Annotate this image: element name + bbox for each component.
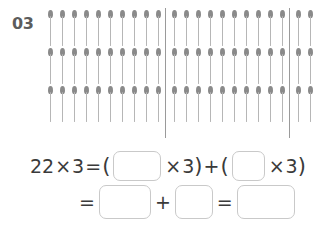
matchstick bbox=[156, 86, 161, 122]
matchstick bbox=[196, 48, 201, 84]
matchstick bbox=[60, 48, 65, 84]
matchstick bbox=[184, 10, 189, 46]
matchstick-stem bbox=[86, 92, 88, 122]
matchstick-stem bbox=[210, 92, 212, 122]
operand-22: 22 bbox=[30, 157, 54, 176]
matchstick bbox=[144, 86, 149, 122]
matchstick-stem bbox=[234, 16, 236, 46]
matchstick bbox=[84, 10, 89, 46]
matchstick bbox=[72, 48, 77, 84]
matchstick-stem bbox=[258, 16, 260, 46]
matchstick bbox=[308, 48, 313, 84]
close-paren-2: ) bbox=[298, 156, 306, 177]
matchstick-stem bbox=[258, 54, 260, 84]
group-divider-line bbox=[289, 8, 290, 138]
matchstick-stem bbox=[186, 92, 188, 122]
answer-blank-1[interactable] bbox=[113, 151, 161, 181]
matchstick-stem bbox=[198, 92, 200, 122]
matchstick-stem bbox=[158, 54, 160, 84]
matchstick bbox=[120, 86, 125, 122]
matchstick-stem bbox=[50, 92, 52, 122]
open-paren-1: ( bbox=[102, 156, 110, 177]
matchstick bbox=[184, 48, 189, 84]
matchstick-stem bbox=[62, 16, 64, 46]
matchstick bbox=[84, 48, 89, 84]
matchstick-stem bbox=[270, 16, 272, 46]
matchstick-stem bbox=[98, 54, 100, 84]
matchstick bbox=[144, 48, 149, 84]
matchstick-stem bbox=[158, 16, 160, 46]
matchstick-stem bbox=[198, 54, 200, 84]
matchstick bbox=[244, 10, 249, 46]
matchstick-stem bbox=[62, 54, 64, 84]
matchstick bbox=[120, 48, 125, 84]
answer-blank-2[interactable] bbox=[232, 151, 265, 181]
matchstick-stem bbox=[146, 16, 148, 46]
matchstick-stem bbox=[258, 92, 260, 122]
matchstick bbox=[208, 86, 213, 122]
matchstick bbox=[96, 86, 101, 122]
matchstick-stem bbox=[222, 92, 224, 122]
matchstick-stem bbox=[310, 54, 312, 84]
matchstick-stem bbox=[134, 54, 136, 84]
matchstick bbox=[108, 48, 113, 84]
answer-blank-5[interactable] bbox=[237, 185, 295, 219]
matchstick bbox=[172, 48, 177, 84]
matchstick bbox=[60, 10, 65, 46]
matchstick-stem bbox=[246, 54, 248, 84]
matchstick bbox=[308, 10, 313, 46]
matchstick bbox=[60, 86, 65, 122]
plus-sign-2: + bbox=[155, 193, 171, 212]
matchstick-stem bbox=[158, 92, 160, 122]
matchstick-stem bbox=[174, 16, 176, 46]
matchstick-stem bbox=[98, 16, 100, 46]
multiply-sign-2: × bbox=[165, 157, 181, 176]
matchstick bbox=[244, 48, 249, 84]
matchstick-stem bbox=[74, 92, 76, 122]
matchstick-stem bbox=[234, 92, 236, 122]
matchstick bbox=[196, 86, 201, 122]
matchstick bbox=[172, 10, 177, 46]
worksheet-page: 03 22 × 3 = ( × 3 ) + ( × 3 ) = + = bbox=[0, 0, 331, 225]
matchstick-stem bbox=[50, 54, 52, 84]
matchstick-stem bbox=[298, 54, 300, 84]
matchstick bbox=[268, 10, 273, 46]
matchstick bbox=[232, 10, 237, 46]
matchstick bbox=[72, 10, 77, 46]
matchstick-stem bbox=[146, 54, 148, 84]
answer-blank-4[interactable] bbox=[175, 185, 213, 219]
matchstick bbox=[220, 48, 225, 84]
matchstick-stem bbox=[298, 16, 300, 46]
matchstick-stem bbox=[310, 92, 312, 122]
matchstick-row bbox=[44, 48, 331, 84]
matchstick-stem bbox=[174, 54, 176, 84]
matchstick bbox=[72, 86, 77, 122]
operand-3: 3 bbox=[72, 157, 84, 176]
matchstick-stem bbox=[134, 16, 136, 46]
matchstick bbox=[232, 48, 237, 84]
plus-sign-1: + bbox=[204, 157, 220, 176]
matchstick-stem bbox=[110, 92, 112, 122]
matchstick bbox=[220, 10, 225, 46]
matchstick bbox=[208, 10, 213, 46]
matchstick-stem bbox=[174, 92, 176, 122]
matchstick bbox=[132, 86, 137, 122]
matchstick-stem bbox=[62, 92, 64, 122]
matchstick bbox=[256, 86, 261, 122]
matchstick-stem bbox=[146, 92, 148, 122]
matchstick-stem bbox=[110, 54, 112, 84]
matchstick-stem bbox=[122, 92, 124, 122]
matchstick-stem bbox=[222, 16, 224, 46]
matchstick bbox=[256, 48, 261, 84]
matchstick-stem bbox=[86, 54, 88, 84]
matchstick-stem bbox=[186, 16, 188, 46]
matchstick-stem bbox=[310, 16, 312, 46]
matchstick-stem bbox=[110, 16, 112, 46]
group-divider-line bbox=[165, 8, 166, 138]
equation-line-1: 22 × 3 = ( × 3 ) + ( × 3 ) bbox=[30, 150, 306, 182]
answer-blank-3[interactable] bbox=[99, 185, 151, 219]
matchstick bbox=[296, 10, 301, 46]
matchstick-stem bbox=[270, 54, 272, 84]
matchstick bbox=[280, 48, 285, 84]
matchstick bbox=[196, 10, 201, 46]
